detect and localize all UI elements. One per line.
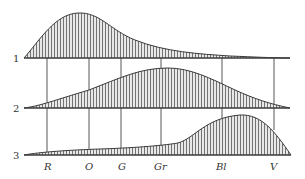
curve-1 — [24, 13, 290, 58]
curve-3 — [24, 115, 291, 155]
band-label-v: V — [270, 161, 279, 172]
curve-2 — [24, 68, 290, 108]
band-label-r: R — [43, 161, 52, 172]
curve-label-1: 1 — [13, 53, 19, 64]
band-label-gr: Gr — [154, 161, 168, 172]
band-label-bl: Bl — [215, 161, 227, 172]
curve-label-3: 3 — [13, 150, 19, 161]
band-label-o: O — [85, 161, 93, 172]
curve-label-2: 2 — [13, 103, 19, 114]
spectral-diagram: 1 2 3 R O G Gr Bl V — [0, 0, 305, 179]
band-label-g: G — [118, 161, 126, 172]
